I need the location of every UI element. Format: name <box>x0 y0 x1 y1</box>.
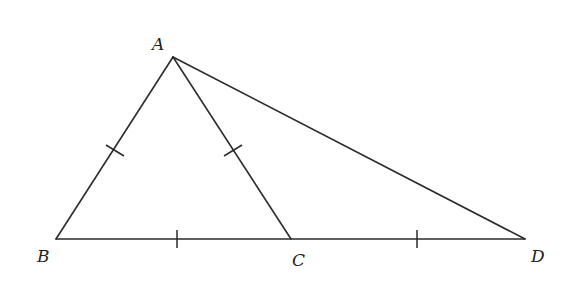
segment-ad <box>173 57 525 239</box>
triangle-diagram: A B C D <box>0 0 569 299</box>
segment-ab <box>56 57 173 239</box>
tick-mark-ac <box>224 145 242 156</box>
segment-ac <box>173 57 291 239</box>
label-d: D <box>530 246 545 266</box>
label-c: C <box>292 250 305 270</box>
label-b: B <box>36 246 50 266</box>
label-a: A <box>150 34 164 54</box>
